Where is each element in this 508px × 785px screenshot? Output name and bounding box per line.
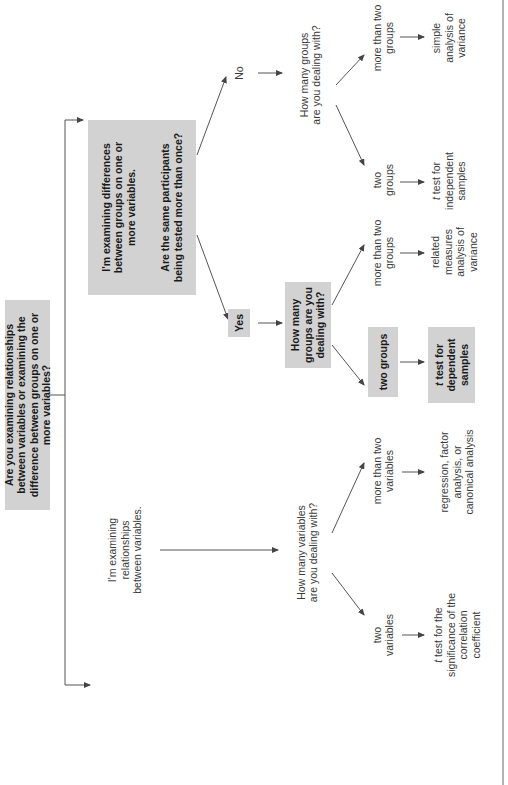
two-variables: two variables bbox=[368, 605, 398, 665]
simple-anova: simple analysis of variance bbox=[428, 3, 470, 73]
no-two-groups: two groups bbox=[368, 160, 398, 200]
yes-more-than-two-groups: more than two groups bbox=[368, 218, 398, 288]
t-test-independent: t test for independent samples bbox=[428, 145, 470, 217]
yes-two-groups-box: two groups bbox=[368, 327, 398, 397]
no-label: No bbox=[228, 59, 250, 87]
how-many-variables: How many variables are you dealing with? bbox=[282, 500, 332, 605]
relationships-statement: I'm examining relationships between vari… bbox=[93, 500, 157, 600]
root-question-box: Are you examining relationships between … bbox=[5, 300, 50, 510]
root-question-text: Are you examining relationships between … bbox=[3, 308, 53, 502]
regression-factor-canonical: regression, factor analysis, or canonica… bbox=[428, 422, 486, 522]
same-participants-question: Are the same participants being tested m… bbox=[159, 130, 184, 285]
no-how-many-groups: How many groups are you dealing with? bbox=[285, 25, 335, 125]
differences-box: I'm examining differences between groups… bbox=[88, 120, 196, 295]
flowchart-canvas: Are you examining relationships between … bbox=[0, 0, 508, 785]
t-test-correlation: t test for the significance of the corre… bbox=[428, 590, 486, 680]
t-test-dependent-box: t test for dependent samples bbox=[428, 327, 475, 403]
yes-how-many-groups-box: How many groups are you dealing with? bbox=[285, 282, 331, 368]
no-more-than-two-groups: more than two groups bbox=[368, 3, 398, 73]
differences-statement: I'm examining differences between groups… bbox=[100, 130, 138, 285]
more-than-two-variables: more than two variables bbox=[368, 432, 398, 510]
yes-box: Yes bbox=[228, 309, 250, 337]
related-measures-anova: related measures analysis of variance bbox=[428, 216, 480, 288]
